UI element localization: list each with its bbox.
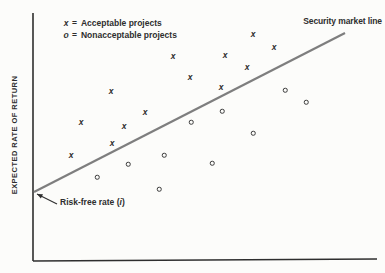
nonacceptable-project-marker — [157, 187, 162, 192]
acceptable-project-marker: x — [110, 139, 115, 148]
acceptable-project-marker: x — [171, 52, 176, 61]
acceptable-project-marker: x — [251, 30, 256, 39]
acceptable-project-marker: x — [69, 151, 74, 160]
acceptable-project-marker: x — [223, 51, 228, 60]
sml-scatter-figure: EXPECTED RATE OF RETURN x = Acceptable p… — [0, 0, 385, 273]
nonacceptable-project-marker — [210, 161, 215, 166]
acceptable-project-marker: x — [79, 118, 84, 127]
nonacceptable-project-marker — [189, 120, 194, 125]
nonacceptable-project-marker — [126, 162, 131, 167]
nonacceptable-project-marker — [304, 100, 309, 105]
nonacceptable-project-marker — [95, 175, 100, 180]
acceptable-project-marker: x — [245, 63, 250, 71]
acceptable-project-marker: x — [122, 122, 127, 131]
nonacceptable-project-marker — [283, 88, 288, 93]
acceptable-project-marker: x — [188, 73, 193, 82]
nonacceptable-project-marker — [220, 109, 225, 114]
nonacceptable-project-marker — [251, 131, 256, 136]
acceptable-project-marker: x — [272, 43, 277, 52]
acceptable-project-marker: x — [219, 83, 224, 92]
nonacceptable-project-marker — [162, 153, 167, 158]
acceptable-project-marker: x — [143, 108, 148, 117]
marker-layer: xxxxxxxxxxxxx — [0, 0, 385, 273]
acceptable-project-marker: x — [109, 87, 114, 96]
